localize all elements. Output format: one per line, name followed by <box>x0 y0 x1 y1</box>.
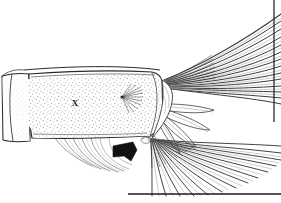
caudal-fin-illustration: X <box>0 0 281 203</box>
label-x: X <box>72 98 79 108</box>
anterior-body-segment <box>2 70 30 142</box>
caudal-peduncle <box>28 70 164 140</box>
figure-root: X <box>0 0 281 203</box>
